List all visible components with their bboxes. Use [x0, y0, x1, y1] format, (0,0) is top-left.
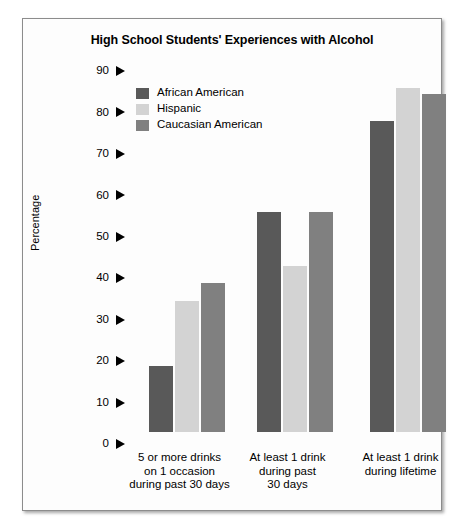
bar	[175, 301, 199, 432]
x-axis-label-line: 30 days	[235, 478, 340, 492]
right-triangle-icon	[116, 190, 125, 200]
x-axis-label-line: on 1 occasion	[127, 465, 232, 479]
y-axis-tick: 0	[59, 437, 125, 451]
y-axis-tick: 90	[59, 64, 125, 78]
x-axis-label-line: At least 1 drink	[235, 451, 340, 465]
right-triangle-icon	[116, 107, 125, 117]
bar-group	[257, 59, 333, 432]
y-axis-tick: 60	[59, 188, 125, 202]
x-axis-label: At least 1 drinkduring past30 days	[235, 451, 340, 492]
bar	[370, 121, 394, 432]
y-axis-tick-label: 20	[96, 355, 109, 367]
bar	[396, 88, 420, 432]
right-triangle-icon	[116, 149, 125, 159]
bar	[149, 366, 173, 432]
bar-group	[370, 59, 446, 432]
y-axis-tick-label: 40	[96, 272, 109, 284]
y-axis-tick-label: 60	[96, 190, 109, 202]
y-axis-tick: 40	[59, 271, 125, 285]
right-triangle-icon	[116, 439, 125, 449]
chart-frame: High School Students' Experiences with A…	[22, 18, 442, 511]
plot-area	[127, 71, 433, 432]
right-triangle-icon	[116, 232, 125, 242]
right-triangle-icon	[116, 356, 125, 366]
x-axis-label-line: during past 30 days	[127, 478, 232, 492]
x-axis-label: 5 or more drinkson 1 occasionduring past…	[127, 451, 232, 492]
y-axis-tick-label: 70	[96, 148, 109, 160]
y-axis-tick-label: 0	[103, 438, 109, 450]
bar	[422, 94, 446, 432]
y-axis-tick: 70	[59, 147, 125, 161]
right-triangle-icon	[116, 273, 125, 283]
right-triangle-icon	[116, 315, 125, 325]
right-triangle-icon	[116, 66, 125, 76]
y-axis-tick-label: 30	[96, 314, 109, 326]
bar	[283, 266, 307, 432]
y-axis-tick: 10	[59, 396, 125, 410]
x-axis-label-line: during lifetime	[348, 465, 453, 479]
bar	[201, 283, 225, 432]
y-axis-title: Percentage	[29, 195, 41, 251]
x-axis-label-line: At least 1 drink	[348, 451, 453, 465]
y-axis-tick-label: 90	[96, 65, 109, 77]
y-axis-tick-label: 10	[96, 397, 109, 409]
x-axis-label-line: 5 or more drinks	[127, 451, 232, 465]
y-axis-tick: 50	[59, 230, 125, 244]
y-axis-tick-label: 50	[96, 231, 109, 243]
x-axis-label: At least 1 drinkduring lifetime	[348, 451, 453, 478]
right-triangle-icon	[116, 398, 125, 408]
y-axis-tick-label: 80	[96, 107, 109, 119]
bar	[257, 212, 281, 432]
y-axis-tick: 20	[59, 354, 125, 368]
bar-group	[149, 59, 225, 432]
y-axis-tick: 80	[59, 105, 125, 119]
bar	[309, 212, 333, 432]
y-axis-tick: 30	[59, 313, 125, 327]
chart-title: High School Students' Experiences with A…	[23, 33, 441, 47]
x-axis-label-line: during past	[235, 465, 340, 479]
